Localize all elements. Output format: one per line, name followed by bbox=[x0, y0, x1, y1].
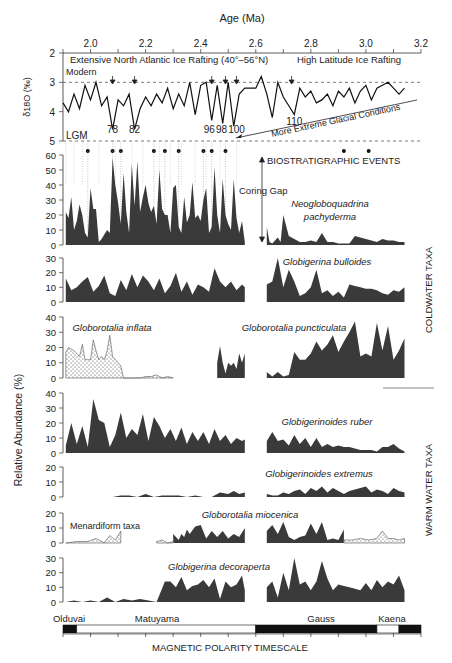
abundance-area bbox=[344, 531, 405, 543]
relative-abundance-axis-label: Relative Abundance (%) bbox=[12, 374, 24, 487]
abundance-tick-label: 20 bbox=[45, 210, 56, 221]
species-label: Globorotalia miocenica bbox=[202, 509, 299, 520]
abundance-tick-label: 10 bbox=[45, 225, 56, 236]
abundance-tick-label: 10 bbox=[45, 282, 56, 293]
abundance-tick-label: 0 bbox=[51, 538, 56, 549]
menardiform-label: Menardiform taxa bbox=[70, 521, 140, 531]
age-axis-title: Age (Ma) bbox=[219, 12, 264, 24]
abundance-area bbox=[66, 335, 173, 378]
age-axis: Age (Ma)2.02.22.42.62.83.03.2 bbox=[63, 12, 428, 53]
abundance-tick-label: 30 bbox=[45, 327, 56, 338]
abundance-tick-label: 20 bbox=[45, 462, 56, 473]
abundance-tick-label: 20 bbox=[45, 342, 56, 353]
isotope-stage-label: 78 bbox=[107, 124, 119, 135]
abundance-area bbox=[66, 576, 245, 602]
d18o-tick-label: 4 bbox=[49, 107, 55, 118]
abundance-area bbox=[267, 522, 344, 543]
abundance-tick-label: 0 bbox=[51, 373, 56, 384]
species-label: Globorotalia puncticulata bbox=[242, 322, 347, 333]
polarity-chron bbox=[77, 625, 256, 633]
abundance-tick-label: 40 bbox=[45, 388, 56, 399]
abundance-area bbox=[267, 487, 405, 498]
species-label: Neogloboquadrina bbox=[291, 198, 369, 209]
paleoclimate-figure: Age (Ma)2.02.22.42.62.83.03.2 2345δ18O (… bbox=[0, 0, 452, 663]
isotope-stage-label: 82 bbox=[129, 124, 141, 135]
isotope-stage-label: 96 bbox=[204, 124, 216, 135]
abundance-tick-label: 0 bbox=[51, 240, 56, 251]
coring-gap-label: Coring Gap bbox=[239, 185, 288, 196]
abundance-tick-label: 0 bbox=[51, 297, 56, 308]
abundance-tick-label: 20 bbox=[45, 567, 56, 578]
isotope-stage-label: 110 bbox=[286, 116, 302, 127]
biostratigraphic-events-label: BIOSTRATIGRAPHIC EVENTS bbox=[267, 155, 400, 166]
magnetic-polarity-timescale: OlduvaiMatuyamaGaussKaenaMAGNETIC POLARI… bbox=[53, 613, 421, 653]
abundance-area bbox=[66, 399, 245, 453]
ice-rafting-annotation: Extensive North Atlantic Ice Rafting (40… bbox=[70, 54, 268, 65]
abundance-tick-label: 30 bbox=[45, 403, 56, 414]
abundance-tick-label: 0 bbox=[51, 597, 56, 608]
age-tick-label: 2.2 bbox=[139, 38, 153, 49]
abundance-tick-label: 40 bbox=[45, 312, 56, 323]
abundance-area bbox=[66, 268, 245, 302]
abundance-tick-label: 20 bbox=[45, 267, 56, 278]
abundance-tick-label: 30 bbox=[45, 553, 56, 564]
chron-label: Matuyama bbox=[135, 613, 180, 624]
warmwater-taxa-label: WARM WATER TAXA bbox=[423, 443, 434, 536]
polarity-chron bbox=[399, 625, 421, 633]
abundance-tick-label: 60 bbox=[45, 150, 56, 161]
coring-gap-arrow bbox=[260, 157, 265, 242]
abundance-tick-label: 0 bbox=[51, 448, 56, 459]
modern-label: Modern bbox=[66, 67, 97, 77]
abundance-area bbox=[173, 525, 245, 543]
abundance-area bbox=[66, 531, 121, 543]
age-tick-label: 2.0 bbox=[84, 38, 98, 49]
d18o-tick-label: 2 bbox=[49, 48, 55, 59]
age-tick-label: 2.8 bbox=[304, 38, 318, 49]
abundance-area bbox=[267, 558, 405, 602]
event-dot bbox=[367, 149, 371, 153]
species-label: Globigerina decoraperta bbox=[168, 561, 270, 572]
abundance-area bbox=[267, 432, 405, 453]
abundance-tick-label: 0 bbox=[51, 492, 56, 503]
abundance-tick-label: 10 bbox=[45, 433, 56, 444]
isotope-stage-label: 100 bbox=[228, 124, 245, 135]
abundance-panels: 0102030405060Neogloboquadrinapachyderma0… bbox=[45, 150, 404, 608]
abundance-tick-label: 30 bbox=[45, 253, 56, 264]
age-tick-label: 2.6 bbox=[249, 38, 263, 49]
event-dot bbox=[342, 149, 346, 153]
species-label: Globigerinoides extremus bbox=[265, 468, 373, 479]
chron-label: Olduvai bbox=[53, 613, 85, 624]
polarity-chron bbox=[63, 625, 77, 633]
abundance-tick-label: 30 bbox=[45, 195, 56, 206]
abundance-area bbox=[157, 540, 174, 543]
abundance-tick-label: 50 bbox=[45, 165, 56, 176]
polarity-chron bbox=[256, 625, 377, 633]
age-tick-label: 3.0 bbox=[359, 38, 373, 49]
age-tick-label: 2.4 bbox=[194, 38, 208, 49]
species-label: Globorotalia inflata bbox=[72, 322, 151, 333]
coldwater-taxa-label: COLDWATER TAXA bbox=[423, 246, 434, 333]
abundance-tick-label: 10 bbox=[45, 477, 56, 488]
species-label: Globigerinoides ruber bbox=[282, 416, 374, 427]
chron-label: Kaena bbox=[378, 613, 406, 624]
d18o-panel: 2345δ18O (‰)ModernLGMExtensive North Atl… bbox=[22, 48, 421, 147]
d18o-axis-label: δ18O (‰) bbox=[22, 77, 32, 117]
polarity-chron bbox=[377, 625, 399, 633]
abundance-tick-label: 20 bbox=[45, 508, 56, 519]
abundance-area bbox=[217, 346, 245, 378]
species-label: pachyderma bbox=[303, 211, 356, 222]
abundance-tick-label: 10 bbox=[45, 523, 56, 534]
d18o-tick-label: 3 bbox=[49, 77, 55, 88]
species-label: Globigerina bulloides bbox=[283, 256, 372, 267]
high-latitude-annotation: High Latitude Ice Rafting bbox=[297, 54, 401, 65]
abundance-tick-label: 10 bbox=[45, 582, 56, 593]
d18o-tick-label: 5 bbox=[49, 136, 55, 147]
polarity-timescale-label: MAGNETIC POLARITY TIMESCALE bbox=[152, 642, 308, 653]
lgm-label: LGM bbox=[66, 130, 88, 141]
abundance-area bbox=[71, 491, 245, 497]
abundance-tick-label: 20 bbox=[45, 418, 56, 429]
abundance-tick-label: 40 bbox=[45, 180, 56, 191]
abundance-area bbox=[66, 158, 245, 245]
isotope-stage-label: 98 bbox=[216, 124, 228, 135]
chron-label: Gauss bbox=[307, 613, 335, 624]
